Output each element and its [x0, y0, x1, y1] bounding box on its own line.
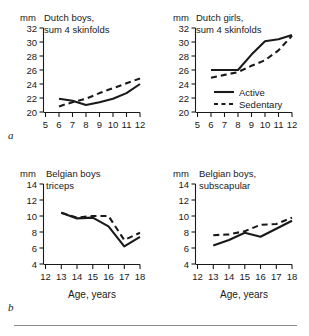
x-tick-label: 15: [240, 271, 251, 282]
y-ticks: [40, 28, 44, 112]
legend-active-label: Active: [239, 87, 265, 98]
x-axis-label: Age, years: [220, 289, 268, 300]
x-tick-label: 6: [208, 119, 213, 130]
y-tick-label: 4: [32, 259, 37, 270]
x-tick-label: 10: [260, 119, 271, 130]
x-tick-label: 7: [222, 119, 227, 130]
x-tick-label: 12: [40, 271, 51, 282]
chart-title-line2: subscapular: [199, 180, 250, 191]
x-axis: 12 13 14 15 16 17 18: [192, 265, 297, 283]
x-tick-label: 9: [97, 119, 102, 130]
y-tick-label: 30: [26, 37, 37, 48]
x-tick-label: 12: [135, 119, 146, 130]
y-tick-label: 10: [178, 211, 189, 222]
chart-belgian-boys-triceps: mm Belgian boys triceps 14 12 10 8 6 4: [0, 160, 154, 310]
x-tick-label: 9: [249, 119, 254, 130]
x-tick-label: 5: [43, 119, 48, 130]
x-tick-label: 11: [274, 119, 284, 130]
y-tick-label: 28: [26, 51, 37, 62]
y-axis: 32 30 28 26 24 22 20: [178, 23, 195, 118]
y-axis: 14 12 10 8 6 4: [26, 179, 43, 270]
x-tick-label: 17: [271, 271, 282, 282]
x-tick-label: 14: [72, 271, 83, 282]
chart-title-line2: sum 4 skinfolds: [196, 24, 262, 35]
skinfold-figure: mm Dutch boys, sum 4 skinfolds 32 30 28 …: [0, 0, 309, 336]
y-tick-label: 8: [184, 227, 189, 238]
y-tick-label: 6: [184, 243, 189, 254]
chart-dutch-girls-svg: mm Dutch girls, sum 4 skinfolds 32 30 28…: [155, 4, 309, 154]
x-tick-label: 18: [287, 271, 298, 282]
x-tick-label: 12: [192, 271, 203, 282]
x-tick-label: 16: [103, 271, 114, 282]
y-tick-label: 24: [178, 79, 189, 90]
x-tick-label: 12: [287, 119, 298, 130]
x-ticks: [46, 113, 141, 118]
series-active-line: [213, 221, 292, 246]
y-axis: 32 30 28 26 24 22 20: [26, 23, 43, 118]
y-ticks: [192, 28, 196, 112]
y-tick-label: 26: [26, 65, 37, 76]
chart-title-line1: Dutch girls,: [196, 12, 244, 23]
chart-title-line1: Dutch boys,: [44, 12, 94, 23]
y-unit-label: mm: [173, 168, 189, 179]
x-tick-label: 7: [70, 119, 75, 130]
y-tick-label: 32: [178, 23, 189, 34]
x-tick-label: 6: [56, 119, 61, 130]
x-tick-label: 13: [56, 271, 67, 282]
y-tick-label: 10: [26, 211, 37, 222]
x-tick-label: 8: [235, 119, 240, 130]
legend-sedentary-label: Sedentary: [239, 99, 283, 110]
panel-letter-b: b: [8, 301, 14, 313]
chart-belgian-boys-triceps-svg: mm Belgian boys triceps 14 12 10 8 6 4: [0, 160, 154, 310]
y-tick-label: 8: [32, 227, 37, 238]
y-ticks: [40, 184, 44, 264]
x-tick-label: 11: [122, 119, 132, 130]
chart-dutch-boys-svg: mm Dutch boys, sum 4 skinfolds 32 30 28 …: [0, 4, 154, 154]
x-tick-label: 8: [83, 119, 88, 130]
x-tick-label: 13: [208, 271, 219, 282]
y-tick-label: 12: [26, 195, 37, 206]
y-axis: 14 12 10 8 6 4: [178, 179, 195, 270]
x-tick-label: 16: [255, 271, 266, 282]
legend: Active Sedentary: [214, 87, 283, 110]
y-tick-label: 28: [178, 51, 189, 62]
y-ticks: [192, 184, 196, 264]
x-tick-label: 15: [88, 271, 99, 282]
y-tick-label: 32: [26, 23, 37, 34]
y-unit-label: mm: [20, 168, 36, 179]
chart-dutch-boys: mm Dutch boys, sum 4 skinfolds 32 30 28 …: [0, 4, 154, 154]
x-tick-label: 5: [195, 119, 200, 130]
y-tick-label: 30: [178, 37, 189, 48]
x-axis: 5 6 7 8 9 10 11 12: [195, 113, 297, 131]
chart-dutch-girls: mm Dutch girls, sum 4 skinfolds 32 30 28…: [155, 4, 309, 154]
y-tick-label: 22: [26, 93, 37, 104]
chart-title-line1: Belgian boys: [46, 168, 101, 179]
bottom-rule: [14, 325, 297, 326]
y-tick-label: 12: [178, 195, 189, 206]
series-sedentary-line: [61, 213, 140, 240]
chart-title-line1: Belgian boys,: [199, 168, 256, 179]
chart-title-line2: triceps: [46, 180, 74, 191]
y-tick-label: 24: [26, 79, 37, 90]
y-unit-label: mm: [173, 12, 189, 23]
panel-letter-a: a: [8, 129, 14, 141]
x-ticks: [46, 265, 141, 270]
x-tick-label: 14: [224, 271, 235, 282]
y-tick-label: 14: [26, 179, 37, 190]
series-active-line: [61, 213, 140, 247]
x-axis: 12 13 14 15 16 17 18: [40, 265, 145, 283]
y-tick-label: 20: [178, 107, 189, 118]
x-axis: 5 6 7 8 9 10 11 12: [43, 113, 145, 131]
x-tick-label: 17: [119, 271, 130, 282]
y-tick-label: 14: [178, 179, 189, 190]
y-tick-label: 6: [32, 243, 37, 254]
y-tick-label: 26: [178, 65, 189, 76]
y-unit-label: mm: [20, 12, 36, 23]
chart-belgian-boys-subscapular: mm Belgian boys, subscapular 14 12 10 8 …: [155, 160, 309, 310]
y-tick-label: 20: [26, 107, 37, 118]
chart-title-line2: sum 4 skinfolds: [44, 24, 110, 35]
x-tick-label: 18: [135, 271, 146, 282]
y-tick-label: 22: [178, 93, 189, 104]
x-ticks: [198, 265, 293, 270]
series-sedentary-line: [211, 36, 292, 78]
